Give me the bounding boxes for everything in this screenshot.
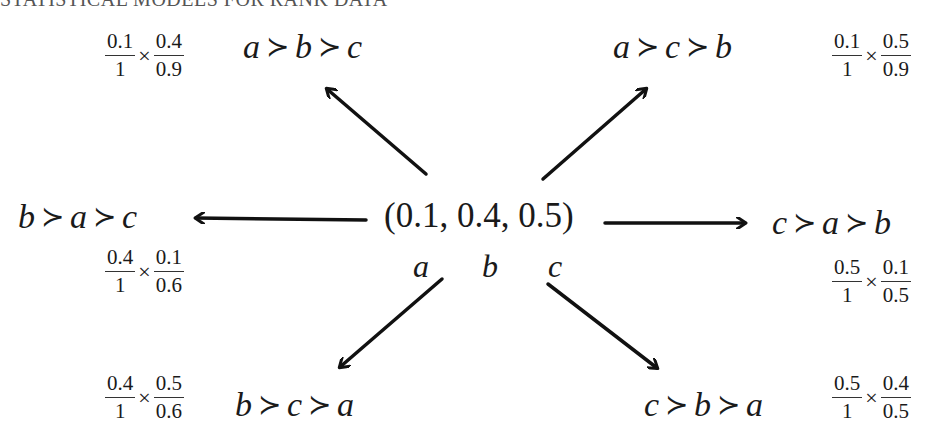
- ranking-abc: a≻b≻c: [243, 30, 362, 64]
- arrow-to-acb: [543, 89, 646, 179]
- ranking-cab: c≻a≻b: [772, 206, 891, 240]
- succ-symbol: ≻: [41, 201, 64, 232]
- succ-symbol: ≻: [266, 31, 289, 62]
- succ-symbol: ≻: [258, 389, 281, 420]
- succ-symbol: ≻: [793, 207, 816, 238]
- succ-symbol: ≻: [686, 31, 709, 62]
- ranking-bac: b≻a≻c: [18, 200, 137, 234]
- prob-expr-cab: 0.51 × 0.10.5: [832, 256, 911, 307]
- succ-symbol: ≻: [308, 389, 331, 420]
- ranking-bca: b≻c≻a: [235, 388, 354, 422]
- item-label-c: c: [548, 250, 562, 282]
- arrow-to-abc: [327, 89, 426, 174]
- arrow-to-bca: [340, 279, 442, 367]
- succ-symbol: ≻: [845, 207, 868, 238]
- prob-expr-abc: 0.11 × 0.40.9: [105, 30, 184, 81]
- succ-symbol: ≻: [93, 201, 116, 232]
- item-label-a: a: [413, 250, 429, 282]
- probability-tuple: (0.1, 0.4, 0.5): [384, 198, 574, 233]
- prob-expr-acb: 0.11 × 0.50.9: [832, 30, 911, 81]
- succ-symbol: ≻: [636, 31, 659, 62]
- succ-symbol: ≻: [717, 389, 740, 420]
- ranking-acb: a≻c≻b: [613, 30, 732, 64]
- item-label-b: b: [482, 250, 498, 282]
- arrow-to-cba: [548, 284, 657, 368]
- arrow-to-bac: [196, 218, 366, 220]
- prob-expr-bac: 0.41 × 0.10.6: [105, 246, 184, 297]
- succ-symbol: ≻: [665, 389, 688, 420]
- prob-expr-cba: 0.51 × 0.40.5: [832, 372, 911, 423]
- succ-symbol: ≻: [318, 31, 341, 62]
- ranking-cba: c≻b≻a: [644, 388, 763, 422]
- prob-expr-bca: 0.41 × 0.50.6: [105, 372, 184, 423]
